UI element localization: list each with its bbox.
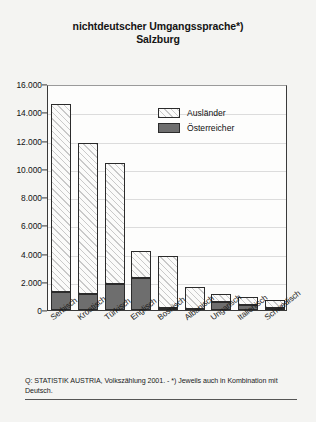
chart-title: nichtdeutscher Umgangssprache*) [0, 20, 316, 33]
chart-footnote: Q: STATISTIK AUSTRIA, Volkszählung 2001.… [25, 377, 297, 400]
legend-item: Österreicher [158, 121, 276, 134]
y-axis-tick-label: 14.000 [0, 108, 42, 118]
bar-segment-auslaender [51, 104, 71, 292]
legend-item: Ausländer [158, 106, 276, 119]
y-axis-tick-label: 6.000 [0, 221, 42, 231]
y-axis-tick-label: 16.000 [0, 80, 42, 90]
y-axis-tick-label: 12.000 [0, 137, 42, 147]
chart-subtitle: Salzburg [0, 33, 316, 46]
hatched-swatch [158, 108, 180, 118]
bar-segment-auslaender [131, 251, 151, 278]
chart-figure: nichtdeutscher Umgangssprache*) Salzburg… [0, 0, 316, 422]
bar-segment-auslaender [78, 143, 98, 293]
y-axis-tick-label: 0 [0, 306, 42, 316]
y-axis-tick-label: 2.000 [0, 278, 42, 288]
y-axis-tick-label: 8.000 [0, 193, 42, 203]
chart-legend: AusländerÖsterreicher [158, 106, 276, 136]
y-axis-tick-label: 4.000 [0, 250, 42, 260]
y-axis-tick-label: 10.000 [0, 165, 42, 175]
legend-item-label: Ausländer [187, 108, 226, 118]
bar-segment-auslaender [105, 163, 125, 284]
legend-item-label: Österreicher [187, 123, 234, 133]
chart-title-block: nichtdeutscher Umgangssprache*) Salzburg [0, 20, 316, 46]
solid-gray-swatch [158, 123, 180, 133]
